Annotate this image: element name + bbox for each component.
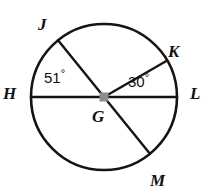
point-label-J: J (38, 16, 47, 33)
point-label-H: H (3, 85, 16, 102)
center-label-G: G (92, 108, 104, 125)
degree-symbol-KGL: ° (145, 71, 149, 83)
angle-label-HGJ: 51° (44, 68, 65, 85)
geometry-diagram-canvas: J K H L M G 51° 30° (0, 0, 216, 194)
angle-value-HGJ: 51 (44, 69, 61, 86)
circle-figure-svg (0, 0, 216, 194)
center-point-dot (100, 93, 109, 102)
degree-symbol-HGJ: ° (61, 67, 65, 79)
angle-label-KGL: 30° (128, 72, 149, 89)
point-label-L: L (190, 85, 200, 102)
angle-value-KGL: 30 (128, 73, 145, 90)
point-label-M: M (150, 172, 165, 189)
point-label-K: K (168, 43, 179, 60)
